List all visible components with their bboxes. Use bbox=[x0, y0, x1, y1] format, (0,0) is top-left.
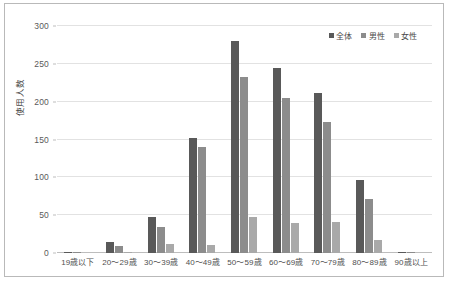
x-axis-tick-label: 40～49歳 bbox=[186, 256, 220, 267]
bar-group bbox=[314, 26, 341, 253]
legend-swatch-icon bbox=[329, 33, 334, 38]
bar[interactable] bbox=[314, 93, 322, 253]
y-axis-tick-mark bbox=[53, 139, 56, 140]
bar-group bbox=[148, 26, 175, 253]
x-axis-tick-label: 70～79歳 bbox=[311, 256, 345, 267]
legend-swatch-icon bbox=[361, 33, 366, 38]
bar[interactable] bbox=[356, 180, 364, 253]
bar-group bbox=[231, 26, 258, 253]
bar[interactable] bbox=[398, 252, 406, 254]
x-axis-tick-label: 60～69歳 bbox=[269, 256, 303, 267]
bar[interactable] bbox=[157, 227, 165, 253]
y-axis-tick-label: 150 bbox=[34, 135, 49, 145]
y-axis-tick-mark bbox=[53, 101, 56, 102]
bar-group bbox=[106, 26, 133, 253]
bar[interactable] bbox=[291, 223, 299, 253]
bar[interactable] bbox=[106, 242, 114, 253]
x-axis-tick-label: 90歳以上 bbox=[394, 256, 427, 267]
bar[interactable] bbox=[64, 252, 72, 253]
bar[interactable] bbox=[249, 217, 257, 253]
y-axis-tick-mark bbox=[53, 177, 56, 178]
legend-item-label: 男性 bbox=[369, 30, 385, 41]
bar-group bbox=[189, 26, 216, 253]
bar[interactable] bbox=[273, 68, 281, 253]
x-axis-tick-label: 30～39歳 bbox=[144, 256, 178, 267]
y-axis-tick-label: 250 bbox=[34, 59, 49, 69]
bar[interactable] bbox=[148, 217, 156, 253]
bar[interactable] bbox=[374, 240, 382, 253]
legend-swatch-icon bbox=[394, 33, 399, 38]
chart-frame: 使用人数 050100150200250300 19歳以下20～29歳30～39… bbox=[4, 3, 444, 277]
y-axis-tick-label: 200 bbox=[34, 97, 49, 107]
bar[interactable] bbox=[124, 252, 132, 254]
bar[interactable] bbox=[407, 252, 415, 254]
bar[interactable] bbox=[73, 252, 81, 253]
plot-area bbox=[57, 26, 432, 253]
y-axis-tick-label: 50 bbox=[39, 210, 49, 220]
bar[interactable] bbox=[332, 222, 340, 253]
bar-group bbox=[356, 26, 383, 253]
bar[interactable] bbox=[207, 245, 215, 253]
legend-item[interactable]: 男性 bbox=[361, 30, 385, 41]
legend-item-label: 女性 bbox=[401, 30, 417, 41]
bar[interactable] bbox=[365, 199, 373, 253]
bar[interactable] bbox=[166, 244, 174, 253]
x-axis-tick-label: 20～29歳 bbox=[102, 256, 136, 267]
bar[interactable] bbox=[115, 246, 123, 253]
bar[interactable] bbox=[198, 147, 206, 253]
bar-group bbox=[273, 26, 300, 253]
y-axis-tick-labels: 050100150200250300 bbox=[5, 26, 55, 253]
y-axis-tick-label: 0 bbox=[44, 248, 49, 258]
y-axis-tick-mark bbox=[53, 215, 56, 216]
x-axis-tick-label: 19歳以下 bbox=[61, 256, 94, 267]
x-axis-tick-label: 80～89歳 bbox=[352, 256, 386, 267]
bar-group bbox=[398, 26, 425, 253]
x-axis-tick-labels: 19歳以下20～29歳30～39歳40～49歳50～59歳60～69歳70～79… bbox=[57, 256, 432, 272]
bar[interactable] bbox=[240, 77, 248, 253]
chart-legend: 全体男性女性 bbox=[329, 30, 418, 41]
y-axis-tick-mark bbox=[53, 63, 56, 64]
bar[interactable] bbox=[189, 138, 197, 253]
bar[interactable] bbox=[282, 98, 290, 253]
x-axis-tick-label: 50～59歳 bbox=[227, 256, 261, 267]
y-axis-tick-label: 100 bbox=[34, 172, 49, 182]
legend-item[interactable]: 女性 bbox=[394, 30, 418, 41]
y-axis-tick-label: 300 bbox=[34, 21, 49, 31]
bar[interactable] bbox=[231, 41, 239, 253]
y-axis-tick-mark bbox=[53, 26, 56, 27]
bar-group bbox=[64, 26, 91, 253]
legend-item[interactable]: 全体 bbox=[329, 30, 353, 41]
legend-item-label: 全体 bbox=[336, 30, 352, 41]
bar[interactable] bbox=[323, 122, 331, 253]
y-axis-tick-mark bbox=[53, 253, 56, 254]
